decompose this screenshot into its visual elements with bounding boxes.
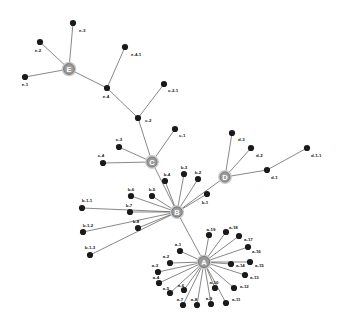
node-label-d-3: d-3 [238,137,245,142]
graph-node-b-2[interactable] [195,176,201,182]
graph-edge [107,88,138,118]
graph-node-c-3[interactable] [116,144,122,150]
node-label-a-4: a-4 [153,275,160,280]
graph-edge [107,47,125,88]
graph-node-a-6[interactable] [181,287,187,293]
graph-edge [138,118,152,162]
node-label-b-1-3: b-1-3 [85,245,96,250]
node-label-c-1: c-1 [179,133,186,138]
graph-node-d-2[interactable] [248,145,254,151]
node-label-e-3: e-3 [79,28,86,33]
graph-node-b-7[interactable] [127,209,133,215]
graph-node-a-17[interactable] [236,233,242,239]
graph-edge [138,84,164,118]
node-label-a-6: a-6 [178,283,185,288]
node-label-c-4: c-4 [98,153,105,158]
node-label-b-4: b-4 [164,172,171,177]
graph-node-a-11[interactable] [223,300,229,306]
node-label-b-5: b-5 [149,187,156,192]
graph-node-a-16[interactable] [245,244,251,250]
node-label-a-15: a-15 [255,263,264,268]
graph-node-b-1-2[interactable] [80,229,86,235]
node-label-a-5: a-5 [163,286,170,291]
graph-edge [177,177,225,212]
graph-node-b-6[interactable] [128,193,134,199]
graph-node-a-7[interactable] [180,302,186,308]
graph-node-a-14[interactable] [228,261,234,267]
graph-node-b-1[interactable] [204,191,210,197]
graph-node-d-3[interactable] [229,130,235,136]
node-label-b-1-2: b-1-2 [83,223,94,228]
graph-node-d-1-1[interactable] [304,145,310,151]
hub-label-B: B [174,208,180,217]
node-layer [22,20,310,308]
graph-node-d-1[interactable] [264,167,270,173]
node-label-a-16: a-16 [252,249,261,254]
hub-label-A: A [201,258,207,267]
graph-node-b-5[interactable] [149,193,155,199]
node-label-c-3: c-3 [116,137,123,142]
graph-node-b-8[interactable] [135,225,141,231]
graph-node-c-2-1[interactable] [161,81,167,87]
hub-label-D: D [222,173,228,182]
node-label-a-8: a-8 [191,297,198,302]
node-label-e-4: e-4 [103,94,110,99]
node-label-b-8: b-8 [133,219,140,224]
graph-edge [103,162,152,163]
node-label-d-2: d-2 [256,153,263,158]
network-graph-canvas: e-1e-2e-3e-4e-4-1c-2c-2-1c-1c-3c-4b-1b-2… [0,0,339,326]
graph-node-a-12[interactable] [231,285,237,291]
graph-node-a-2[interactable] [167,260,173,266]
graph-node-c-2[interactable] [135,115,141,121]
graph-edge [177,212,204,262]
node-label-b-6: b-6 [128,187,135,192]
graph-node-e-3[interactable] [70,20,76,26]
node-label-a-12: a-12 [240,284,249,289]
node-label-a-1: a-1 [175,242,182,247]
node-label-c-2: c-2 [145,118,152,123]
node-label-a-11: a-11 [232,297,241,302]
graph-node-e-4-1[interactable] [122,44,128,50]
graph-node-e-4[interactable] [104,85,110,91]
graph-node-b-4[interactable] [162,178,168,184]
network-graph-svg: e-1e-2e-3e-4e-4-1c-2c-2-1c-1c-3c-4b-1b-2… [0,0,339,326]
node-label-b-3: b-3 [181,165,188,170]
node-label-a-10: a-10 [210,280,219,285]
graph-node-a-9[interactable] [208,301,214,307]
graph-node-a-1[interactable] [177,248,183,254]
node-label-a-3: a-3 [152,263,159,268]
node-label-d-1: d-1 [271,175,278,180]
graph-node-a-18[interactable] [223,229,229,235]
hub-label-E: E [66,65,71,74]
graph-node-a-4[interactable] [156,280,162,286]
graph-node-c-1[interactable] [172,126,178,132]
node-label-c-2-1: c-2-1 [168,88,179,93]
graph-node-b-1-1[interactable] [79,205,85,211]
node-label-a-2: a-2 [163,254,170,259]
graph-node-a-13[interactable] [242,272,248,278]
node-label-b-7: b-7 [126,203,133,208]
node-label-a-14: a-14 [236,263,245,268]
graph-node-a-19[interactable] [206,232,212,238]
node-label-e-1: e-1 [22,82,29,87]
node-label-a-9: a-9 [206,296,213,301]
graph-node-c-4[interactable] [100,160,106,166]
node-label-a-13: a-13 [250,275,259,280]
node-label-d-1-1: d-1-1 [311,153,322,158]
graph-node-a-5[interactable] [167,290,173,296]
graph-node-a-15[interactable] [247,259,253,265]
node-label-a-19: a-19 [207,227,216,232]
node-label-a-7: a-7 [177,297,184,302]
graph-node-e-2[interactable] [37,39,43,45]
node-label-b-1-1: b-1-1 [82,198,93,203]
graph-node-a-10[interactable] [212,285,218,291]
graph-node-a-8[interactable] [194,302,200,308]
node-label-b-2: b-2 [195,170,202,175]
hub-label-C: C [149,158,155,167]
graph-node-e-1[interactable] [22,74,28,80]
graph-node-b-3[interactable] [181,171,187,177]
node-label-b-1: b-1 [202,200,209,205]
node-label-a-18: a-18 [229,225,238,230]
graph-edge [267,148,307,170]
graph-node-b-1-3[interactable] [87,252,93,258]
